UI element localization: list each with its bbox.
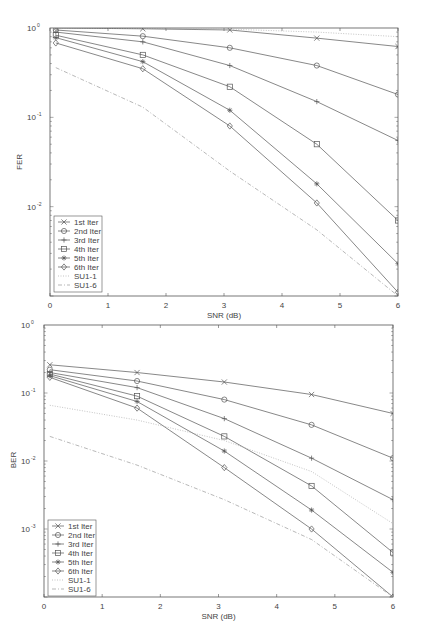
y-tick-label: 10 [21, 457, 30, 466]
x-tick-label: 6 [396, 301, 401, 310]
y-tick-label: 10 [21, 389, 30, 398]
y-tick-exponent: 0 [31, 319, 34, 325]
x-tick-label: 5 [333, 602, 338, 611]
x-tick-label: 1 [106, 301, 111, 310]
y-tick-label: 10 [21, 525, 30, 534]
series-6th-iter [47, 374, 395, 600]
y-axis-label: BER [9, 452, 18, 469]
y-tick-label: 10 [21, 321, 30, 330]
y-tick-exponent: -1 [37, 111, 42, 117]
legend-entry: 2nd Iter [74, 227, 101, 236]
legend-entry: SU1-6 [68, 585, 91, 594]
x-tick-label: 0 [48, 301, 53, 310]
legend-entry: 2nd Iter [68, 531, 95, 540]
legend-entry: 4th Iter [68, 549, 93, 558]
y-tick-exponent: -1 [31, 387, 36, 393]
legend-entry: 5th Iter [68, 558, 93, 567]
top-chart: 012345610010-110-2SNR (dB)FER1st Iter2nd… [15, 22, 401, 320]
legend-entry: 1st Iter [68, 522, 93, 531]
series-su1-6 [56, 68, 398, 296]
legend: 1st Iter2nd Iter3rd Iter4th Iter5th Iter… [54, 216, 102, 292]
y-tick-exponent: 0 [37, 22, 40, 28]
x-tick-label: 2 [158, 602, 163, 611]
series-6th-iter [53, 40, 400, 296]
series-su1-1 [56, 28, 398, 37]
legend-entry: SU1-1 [68, 576, 91, 585]
legend-entry: 6th Iter [68, 567, 93, 576]
y-tick-exponent: -2 [31, 455, 36, 461]
x-tick-label: 5 [338, 301, 343, 310]
x-axis-label: SNR (dB) [207, 311, 242, 320]
x-tick-label: 6 [391, 602, 396, 611]
x-axis-label: SNR (dB) [201, 612, 236, 621]
series-1st-iter [53, 25, 400, 49]
x-tick-label: 4 [274, 602, 279, 611]
x-tick-label: 0 [42, 602, 47, 611]
bottom-chart: 012345610010-110-210-3SNR (dB)BER1st Ite… [9, 319, 396, 621]
legend-entry: 5th Iter [74, 254, 99, 263]
y-tick-label: 10 [27, 24, 36, 33]
x-tick-label: 3 [216, 602, 221, 611]
legend-entry: 6th Iter [74, 263, 99, 272]
series-4th-iter [53, 33, 400, 223]
series-5th-iter [53, 35, 400, 266]
y-tick-label: 10 [27, 203, 36, 212]
series-su1-1 [50, 405, 393, 523]
legend-entry: SU1-1 [74, 272, 97, 281]
x-tick-label: 2 [164, 301, 169, 310]
legend-entry: 4th Iter [74, 245, 99, 254]
y-tick-exponent: -2 [37, 201, 42, 207]
x-tick-label: 1 [100, 602, 105, 611]
y-axis-label: FER [15, 154, 24, 170]
legend: 1st Iter2nd Iter3rd Iter4th Iter5th Iter… [48, 520, 96, 596]
y-tick-label: 10 [27, 113, 36, 122]
figure-canvas: 012345610010-110-2SNR (dB)FER1st Iter2nd… [0, 0, 421, 638]
x-tick-label: 4 [280, 301, 285, 310]
legend-entry: 1st Iter [74, 218, 99, 227]
y-tick-exponent: -3 [31, 523, 36, 529]
legend-entry: 3rd Iter [74, 236, 100, 245]
legend-entry: SU1-6 [74, 281, 97, 290]
legend-entry: 3rd Iter [68, 540, 94, 549]
series-1st-iter [47, 362, 395, 416]
series-su1-6 [50, 436, 393, 597]
plot-frame [44, 325, 393, 597]
x-tick-label: 3 [222, 301, 227, 310]
